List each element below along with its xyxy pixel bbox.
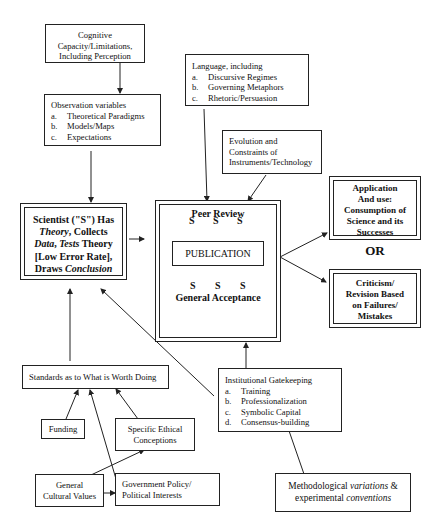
language-box: Language, including a.Discursive Regimes… [185,54,309,106]
cognitive-line-1: Cognitive [46,30,144,41]
application-line-4: Science and its [334,216,416,227]
government-line-2: Political Interests [122,490,219,501]
application-line-2: And use: [334,194,416,205]
methodological-line-2: experimental conventions [276,492,410,504]
observation-variables-box: Observation variables a.Theoretical Para… [44,94,161,146]
scientist-line-3: Data, Tests Theory [25,238,122,250]
application-line-3: Consumption of [334,205,416,216]
s-label-bottom-1: S [190,280,196,291]
or-label: OR [329,243,421,259]
publication-box: PUBLICATION [172,241,264,266]
language-item: c.Rhetoric/Persuasion [192,93,308,104]
evolution-line-1: Evolution and [229,136,321,147]
funding-box: Funding [41,419,85,439]
evolution-instruments-box: Evolution and Constraints of Instruments… [222,130,322,174]
government-policy-box: Government Policy/ Political Interests [115,473,220,506]
language-title: Language, including [192,61,308,72]
standards-label: Standards as to What is Worth Doing [29,372,156,382]
ethical-line-1: Specific Ethical [116,424,194,435]
evolution-line-3: Instruments/Technology [229,157,321,168]
gatekeeping-item: c.Symbolic Capital [225,407,341,418]
institutional-gatekeeping-box: Institutional Gatekeeping a.Training b.P… [218,368,342,432]
language-item: b.Governing Metaphors [192,82,308,93]
application-box: Application And use: Consumption of Scie… [329,176,421,240]
application-line-5: Successes [334,227,416,238]
cultural-values-box: General Cultural Values [35,474,104,507]
cognitive-line-3: Including Perception [46,51,144,62]
cognitive-line-2: Capacity/Limitations, [46,41,144,52]
s-label-bottom-2: S [215,280,221,291]
observation-item: a.Theoretical Paradigms [51,111,160,122]
cultural-line-1: General [36,480,103,491]
ethical-conceptions-box: Specific Ethical Conceptions [115,418,195,451]
scientist-line-5: Draws Conclusion [25,263,122,275]
cognitive-capacity-box: Cognitive Capacity/Limitations, Includin… [45,24,145,63]
gatekeeping-item: d.Consensus-building [225,417,341,428]
scientist-line-2: Theory, Collects [25,226,122,238]
scientist-line-4: [Low Error Rate], [25,251,122,263]
government-line-1: Government Policy/ [122,479,219,490]
scientist-line-1: Scientist ("S") Has [25,214,122,226]
s-label-top-1: S [189,215,195,226]
criticism-line-3: on Failures/ [334,300,416,311]
observation-title: Observation variables [51,100,160,111]
evolution-line-2: Constraints of [229,147,321,158]
funding-label: Funding [49,424,78,434]
language-item: a.Discursive Regimes [192,72,308,83]
publication-label: PUBLICATION [185,248,251,259]
gatekeeping-title: Institutional Gatekeeping [225,375,341,386]
methodological-line-1: Methodological variations & [276,480,410,492]
standards-box: Standards as to What is Worth Doing [22,365,169,389]
criticism-line-1: Criticism/ [334,278,416,289]
cultural-line-2: Cultural Values [36,491,103,502]
criticism-box: Criticism/ Revision Based on Failures/ M… [329,269,421,328]
s-label-top-2: S [213,215,219,226]
gatekeeping-item: a.Training [225,386,341,397]
application-line-1: Application [334,183,416,194]
methodological-box: Methodological variations & experimental… [275,473,411,512]
criticism-line-4: Mistakes [334,311,416,322]
s-label-top-3: S [237,215,243,226]
observation-item: b.Models/Maps [51,121,160,132]
general-acceptance-label: General Acceptance [155,292,281,303]
gatekeeping-item: b.Professionalization [225,396,341,407]
s-label-bottom-3: S [240,280,246,291]
criticism-line-2: Revision Based [334,289,416,300]
ethical-line-2: Conceptions [116,435,194,446]
observation-item: c.Expectations [51,132,160,143]
scientist-box: Scientist ("S") Has Theory, Collects Dat… [20,203,127,280]
